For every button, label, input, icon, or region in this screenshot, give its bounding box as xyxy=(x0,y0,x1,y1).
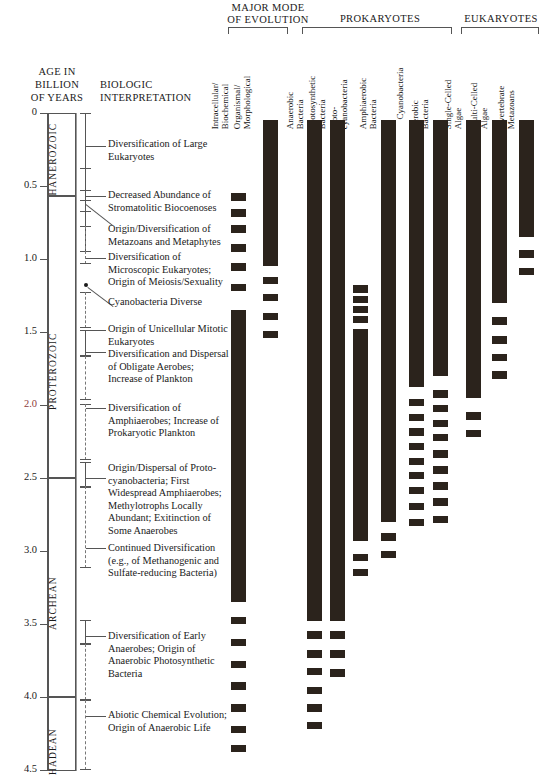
data-bar-segment xyxy=(231,704,246,711)
data-bar-segment xyxy=(231,284,246,291)
data-bar-segment xyxy=(433,482,448,489)
data-bar-segment xyxy=(353,569,368,576)
data-bar-segment xyxy=(466,412,481,419)
data-bar-segment xyxy=(330,631,345,638)
data-bar-segment xyxy=(330,650,345,657)
data-bar-segment xyxy=(409,487,424,494)
figure-root: MAJOR MODE OF EVOLUTION PROKARYOTES EUKA… xyxy=(0,0,552,780)
data-bar-solid xyxy=(381,120,396,522)
data-bar-segment xyxy=(307,704,322,711)
data-bar-segment xyxy=(231,225,246,232)
data-bar-segment xyxy=(409,458,424,465)
data-bar-segment xyxy=(263,313,278,320)
data-bar-segment xyxy=(353,554,368,561)
data-bar-solid xyxy=(330,120,345,621)
data-bar-segment xyxy=(231,726,246,733)
data-bar-segment xyxy=(231,263,246,270)
data-bar-segment xyxy=(231,661,246,668)
data-bar-solid xyxy=(353,329,368,541)
data-bar-segment xyxy=(409,428,424,435)
data-bar-segment xyxy=(231,617,246,624)
data-bar-segment xyxy=(433,516,448,523)
data-bar-solid xyxy=(433,120,448,376)
data-bar-segment xyxy=(381,533,396,540)
data-bar-segment xyxy=(263,331,278,338)
data-bar-segment xyxy=(353,316,368,323)
data-bar-segment xyxy=(231,244,246,251)
data-bar-segment xyxy=(231,682,246,689)
data-bar-segment xyxy=(433,420,448,427)
data-bar-segment xyxy=(409,503,424,510)
data-bar-segment xyxy=(433,466,448,473)
data-bar-segment xyxy=(492,336,507,343)
data-bar-segment xyxy=(492,371,507,378)
data-bar-segment xyxy=(492,354,507,361)
data-bar-segment xyxy=(433,390,448,397)
data-bar-solid xyxy=(466,120,481,397)
data-bar-segment xyxy=(307,650,322,657)
data-bar-segment xyxy=(409,472,424,479)
data-bar-solid xyxy=(492,120,507,303)
data-bar-segment xyxy=(381,551,396,558)
data-bar-solid xyxy=(263,120,278,266)
data-bar-segment xyxy=(263,277,278,284)
data-bar-segment xyxy=(307,668,322,675)
data-bar-segment xyxy=(353,306,368,313)
data-bar-segment xyxy=(231,209,246,216)
data-bar-segment xyxy=(466,430,481,437)
data-bar-segment xyxy=(231,193,246,200)
data-bar-segment xyxy=(353,285,368,292)
data-bar-segment xyxy=(433,434,448,441)
data-bar-solid xyxy=(231,310,246,602)
data-bar-segment xyxy=(353,296,368,303)
data-bar-segment xyxy=(307,631,322,638)
data-bar-segment xyxy=(231,639,246,646)
data-bar-segment xyxy=(433,498,448,505)
data-bar-solid xyxy=(409,120,424,387)
data-bar-segment xyxy=(307,687,322,694)
data-bar-segment xyxy=(409,519,424,526)
data-bar-segment xyxy=(409,443,424,450)
data-bar-segment xyxy=(307,722,322,729)
data-bar-segment xyxy=(433,405,448,412)
data-bar-segment xyxy=(263,294,278,301)
data-bar-segment xyxy=(492,317,507,324)
data-bar-segment xyxy=(519,268,534,275)
data-bar-segment xyxy=(409,399,424,406)
data-bar-segment xyxy=(409,414,424,421)
data-bar-segment xyxy=(231,745,246,752)
data-bar-segment xyxy=(519,250,534,257)
data-columns-layer xyxy=(0,0,552,780)
data-bar-solid xyxy=(307,120,322,621)
data-bar-segment xyxy=(433,450,448,457)
data-bar-segment xyxy=(330,669,345,676)
data-bar-solid xyxy=(519,120,534,237)
